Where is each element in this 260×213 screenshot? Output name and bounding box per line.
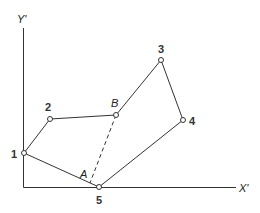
polygon-diagram: Y' X' 1 2 B 3 4 5 A bbox=[0, 0, 260, 213]
vertex-5-label: 5 bbox=[96, 194, 102, 206]
polygon-outline bbox=[24, 60, 183, 187]
vertex-4-marker bbox=[181, 118, 186, 123]
dashed-segment-ba bbox=[90, 115, 116, 183]
vertex-3-marker bbox=[159, 58, 164, 63]
vertex-2-label: 2 bbox=[45, 101, 51, 113]
vertex-1-label: 1 bbox=[11, 148, 17, 160]
x-axis-label: X' bbox=[238, 182, 249, 194]
vertex-1-marker bbox=[22, 151, 27, 156]
point-b-label: B bbox=[111, 97, 118, 109]
point-a-label: A bbox=[79, 168, 87, 180]
y-axis-label: Y' bbox=[17, 13, 27, 25]
vertex-5-marker bbox=[97, 185, 102, 190]
vertex-2-marker bbox=[48, 117, 53, 122]
vertex-b-marker bbox=[114, 113, 119, 118]
vertex-3-label: 3 bbox=[158, 43, 164, 55]
vertex-4-label: 4 bbox=[189, 115, 196, 127]
